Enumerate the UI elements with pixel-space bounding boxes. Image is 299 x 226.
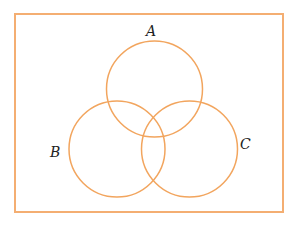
venn-diagram: A B C: [0, 0, 299, 226]
set-a-label: A: [146, 24, 156, 38]
set-c-label: C: [240, 137, 251, 151]
set-a-circle: [107, 41, 203, 137]
set-b-label: B: [50, 145, 60, 159]
set-c-circle: [142, 101, 238, 197]
set-b-circle: [69, 101, 165, 197]
